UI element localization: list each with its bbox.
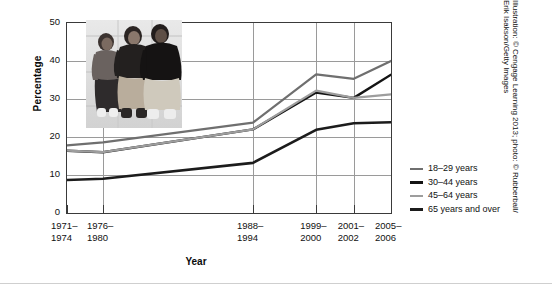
legend-label-3: 65 years and over <box>428 203 500 217</box>
credit-text: Illustration: © Cengage Learning 2013; p… <box>503 0 519 284</box>
x-tick-label-0: 1971– 1974 <box>51 220 77 243</box>
y-tick-label-30: 30 <box>30 93 60 103</box>
x-tick-label-3: 1999– 2000 <box>300 220 326 243</box>
plot-area <box>66 22 392 214</box>
legend-swatch-icon-2 <box>410 195 423 197</box>
legend-item-3[interactable]: 65 years and over <box>410 203 500 217</box>
legend-label-1: 30–44 years <box>428 176 478 190</box>
legend-swatch-icon-1 <box>410 181 423 183</box>
legend: 18–29 years30–44 years45–64 years65 year… <box>410 162 500 216</box>
y-tick-label-20: 20 <box>30 131 60 141</box>
y-tick-label-10: 10 <box>30 169 60 179</box>
legend-item-2[interactable]: 45–64 years <box>410 189 500 203</box>
legend-swatch-icon-0 <box>410 168 423 170</box>
legend-item-1[interactable]: 30–44 years <box>410 176 500 190</box>
legend-item-0[interactable]: 18–29 years <box>410 162 500 176</box>
legend-label-2: 45–64 years <box>428 189 478 203</box>
x-tick-label-1: 1976– 1980 <box>87 220 113 243</box>
x-tick-label-2: 1988– 1994 <box>237 220 263 243</box>
y-tick-label-40: 40 <box>30 55 60 65</box>
x-tick-label-5: 2005– 2006 <box>375 220 401 243</box>
y-tick-label-50: 50 <box>30 17 60 27</box>
y-tick-label-0: 0 <box>30 207 60 217</box>
photo-three-people <box>86 20 182 128</box>
legend-label-0: 18–29 years <box>428 162 478 176</box>
legend-swatch-icon-3 <box>410 208 423 211</box>
x-tick-mark-5 <box>391 205 392 213</box>
x-tick-label-4: 2001– 2002 <box>338 220 364 243</box>
photo-illustration <box>86 20 182 128</box>
obesity-trend-figure: Percentage 01020304050 <box>0 0 552 284</box>
y-axis-title: Percentage <box>32 41 43 127</box>
x-axis-title: Year <box>0 256 392 267</box>
